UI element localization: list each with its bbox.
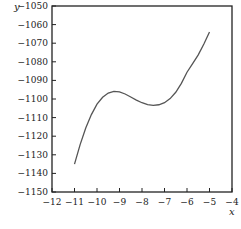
y-tick-label: −1100 xyxy=(18,94,49,104)
y-tick-label: −1130 xyxy=(18,150,49,160)
x-tick-label: −5 xyxy=(203,197,217,207)
x-tick-label: −6 xyxy=(180,197,194,207)
x-tick-label: −10 xyxy=(88,197,107,207)
y-tick-label: −1090 xyxy=(18,75,49,85)
y-tick-label: −1050 xyxy=(18,1,49,11)
x-tick-label: −11 xyxy=(65,197,84,207)
x-tick-label: −12 xyxy=(43,197,62,207)
x-tick-label: −9 xyxy=(113,197,127,207)
y-tick-label: −1120 xyxy=(18,131,49,141)
x-axis-label: x xyxy=(229,206,235,217)
x-axis-ticks: −12−11−10−9−8−7−6−5−4 xyxy=(43,188,239,207)
chart: −1050−1060−1070−1080−1090−1100−1110−1120… xyxy=(0,0,241,229)
y-tick-label: −1110 xyxy=(18,113,49,123)
data-curve xyxy=(75,32,210,164)
x-tick-label: −8 xyxy=(135,197,149,207)
plot-frame xyxy=(52,6,232,192)
x-tick-label: −7 xyxy=(158,197,172,207)
y-axis-ticks: −1050−1060−1070−1080−1090−1100−1110−1120… xyxy=(18,1,56,197)
y-tick-label: −1080 xyxy=(18,57,49,67)
y-tick-label: −1070 xyxy=(18,38,49,48)
y-axis-label: y xyxy=(13,1,20,12)
y-tick-label: −1060 xyxy=(18,20,49,30)
y-tick-label: −1150 xyxy=(18,187,49,197)
y-tick-label: −1140 xyxy=(18,168,49,178)
